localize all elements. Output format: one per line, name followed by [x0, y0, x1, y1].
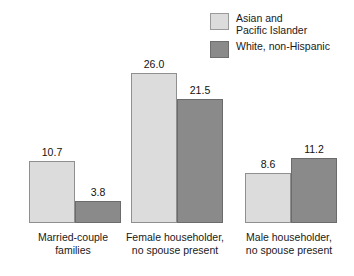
bar-group-married-couple-families: 10.7 3.8	[29, 147, 121, 223]
category-label-married-couple-families: Married-couple families	[17, 231, 129, 256]
bar-group-female-householder-no-spouse-present: 26.0 21.5	[131, 59, 223, 223]
bar-slot-asian-pacific-islander-0: 10.7	[29, 147, 75, 223]
bar-slot-asian-pacific-islander-1: 26.0	[131, 59, 177, 223]
bar-value-label: 11.2	[304, 144, 324, 155]
bar-group-male-householder-no-spouse-present: 8.6 11.2	[245, 144, 337, 223]
bar-slot-white-non-hispanic-2: 11.2	[291, 144, 337, 223]
bar-white-non-hispanic-married-couple-families	[75, 201, 121, 223]
category-label-female-householder-no-spouse-present: Female householder, no spouse present	[119, 231, 231, 256]
plot-area: 10.7 3.8 26.0 21.5 8.6	[0, 0, 354, 276]
bar-value-label: 10.7	[42, 147, 62, 158]
bar-asian-pacific-islander-male-householder-no-spouse-present	[245, 173, 291, 223]
bar-value-label: 3.8	[91, 187, 106, 198]
bar-value-label: 21.5	[190, 85, 210, 96]
bar-slot-white-non-hispanic-0: 3.8	[75, 187, 121, 223]
bar-white-non-hispanic-male-householder-no-spouse-present	[291, 158, 337, 223]
bar-chart: Asian and Pacific Islander White, non-Hi…	[0, 0, 354, 276]
bar-value-label: 8.6	[261, 159, 276, 170]
bar-asian-pacific-islander-female-householder-no-spouse-present	[131, 73, 177, 223]
bar-value-label: 26.0	[144, 59, 164, 70]
bar-slot-asian-pacific-islander-2: 8.6	[245, 159, 291, 223]
bar-slot-white-non-hispanic-1: 21.5	[177, 85, 223, 223]
bar-asian-pacific-islander-married-couple-families	[29, 161, 75, 223]
category-label-male-householder-no-spouse-present: Male householder, no spouse present	[233, 231, 345, 256]
bar-white-non-hispanic-female-householder-no-spouse-present	[177, 99, 223, 223]
